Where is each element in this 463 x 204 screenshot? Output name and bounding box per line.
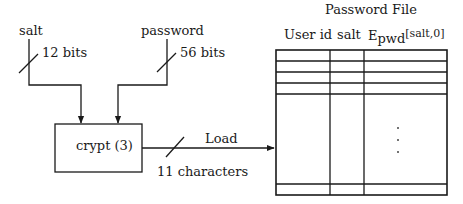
output-width-label: 11 characters <box>157 165 248 178</box>
column-header-salt: salt <box>337 28 361 41</box>
salt-label: salt <box>19 24 43 37</box>
ellipsis-dot <box>397 139 399 141</box>
encrypted-sub: pwd <box>378 31 406 46</box>
ellipsis-dot <box>397 151 399 153</box>
salt-width-label: 12 bits <box>42 46 87 59</box>
password-file-title: Password File <box>325 3 417 16</box>
column-header-user-id: User id <box>284 28 332 41</box>
encrypted-sup: [salt,0] <box>405 27 444 40</box>
crypt-label: crypt (3) <box>76 139 133 152</box>
password-width-label: 56 bits <box>180 46 225 59</box>
ellipsis-dot <box>397 127 399 129</box>
column-header-encrypted: Epwd[salt,0] <box>368 28 445 45</box>
load-label: Load <box>205 132 238 145</box>
password-label: password <box>141 24 204 37</box>
password-arrow <box>118 39 167 123</box>
load-bus-slash <box>166 137 184 157</box>
encrypted-main: E <box>368 28 378 43</box>
